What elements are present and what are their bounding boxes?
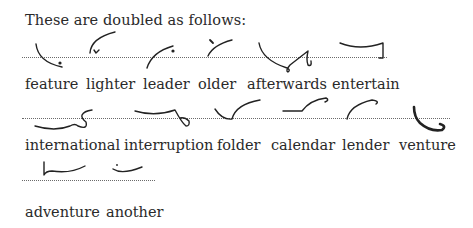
shorthand-outline-folder-icon xyxy=(215,100,260,119)
word-international: international xyxy=(25,137,120,153)
shorthand-outline-lighter-icon xyxy=(90,32,115,53)
word-another: another xyxy=(106,204,163,220)
shorthand-outline-calendar-icon xyxy=(283,98,328,111)
shorthand-outline-another-icon xyxy=(113,164,142,171)
word-leader: leader xyxy=(143,76,190,92)
shorthand-outline-feature-icon xyxy=(36,44,62,67)
word-feature: feature xyxy=(25,76,78,92)
shorthand-outline-older-icon xyxy=(208,40,232,56)
word-venture: venture xyxy=(399,137,456,153)
word-adventure: adventure xyxy=(25,204,100,220)
word-folder: folder xyxy=(217,137,261,153)
writing-line-3 xyxy=(22,180,155,181)
shorthand-outline-entertain-icon xyxy=(340,43,383,58)
word-calendar: calendar xyxy=(271,137,335,153)
shorthand-outlines xyxy=(0,0,473,228)
word-entertain: entertain xyxy=(332,76,400,92)
word-lighter: lighter xyxy=(86,76,135,92)
word-older: older xyxy=(198,76,236,92)
word-interruption: interruption xyxy=(124,137,213,153)
shorthand-outline-international-icon xyxy=(35,110,92,129)
shorthand-outline-adventure-icon xyxy=(44,162,85,175)
word-lender: lender xyxy=(342,137,389,153)
writing-line-2 xyxy=(22,118,450,119)
page-heading: These are doubled as follows: xyxy=(25,12,246,28)
word-afterwards: afterwards xyxy=(247,76,327,92)
shorthand-outline-lender-icon xyxy=(347,100,377,119)
writing-line-1 xyxy=(22,57,387,58)
